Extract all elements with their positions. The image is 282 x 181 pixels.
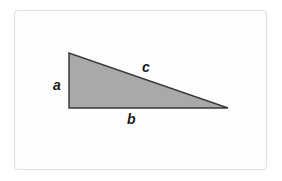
side-label-c: c	[142, 60, 150, 74]
side-label-a: a	[53, 78, 61, 92]
side-label-b: b	[127, 112, 136, 126]
right-triangle-diagram	[0, 0, 282, 181]
